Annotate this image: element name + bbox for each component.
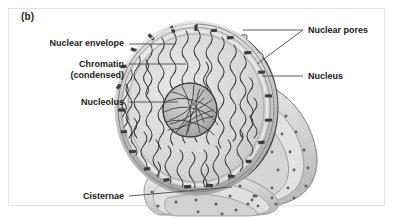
label-nuclear-pores: Nuclear pores <box>308 25 394 36</box>
figure-panel: (b) <box>0 0 395 217</box>
label-chromatin-sub: (condensed) <box>14 70 124 81</box>
nucleolus <box>163 83 218 137</box>
label-nuclear-envelope: Nuclear envelope <box>14 38 124 49</box>
leader-nuclear-pores-b <box>257 30 303 64</box>
label-nucleolus: Nucleolus <box>14 97 124 108</box>
label-nucleus: Nucleus <box>308 71 394 82</box>
label-cisternae: Cisternae <box>36 191 124 202</box>
label-chromatin: Chromatin <box>14 59 124 70</box>
